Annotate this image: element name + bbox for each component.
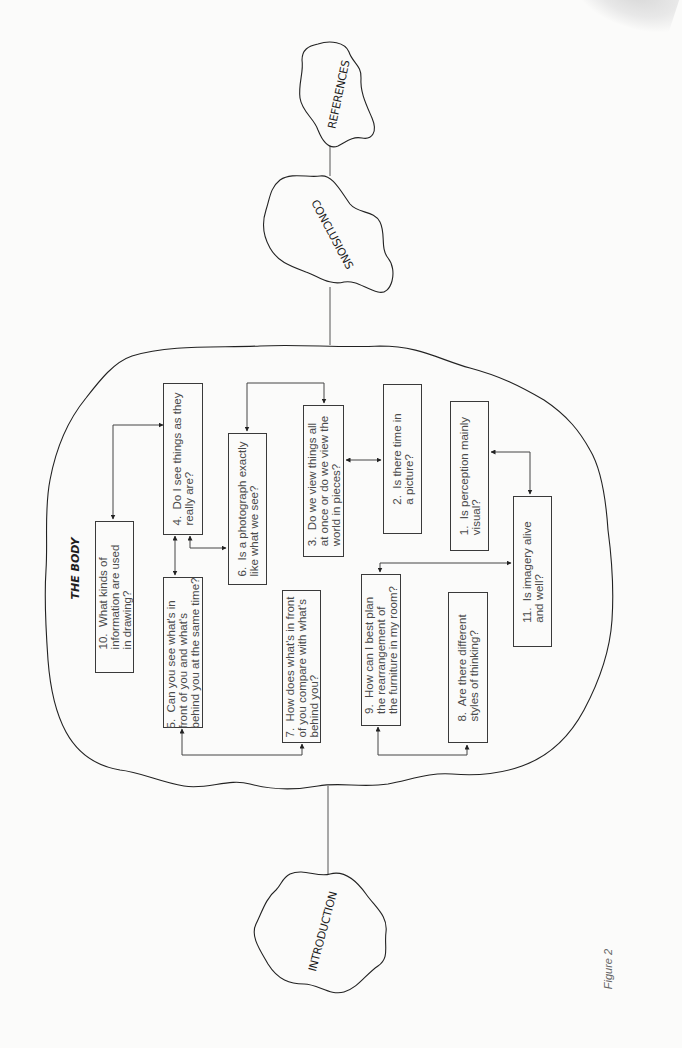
question-box-2: 2. Is there time in a picture? xyxy=(383,384,422,534)
question-box-11: 11. Is imagery alive and well? xyxy=(513,496,552,647)
question-box-8: 8. Are there different styles of thinkin… xyxy=(448,592,488,743)
question-box-9: 9. How can I best plan the rearrangement… xyxy=(361,574,401,726)
question-text-10: 10. What kinds of information are used i… xyxy=(97,545,133,650)
question-box-6: 6. Is a photograph exactly like what we … xyxy=(228,433,267,585)
question-text-11: 11. Is imagery alive and well? xyxy=(521,521,545,622)
question-box-3: 3. Do we view things all at once or do w… xyxy=(303,405,344,557)
question-box-1: 1. Is perception mainly visual? xyxy=(450,401,489,551)
question-text-2: 2. Is there time in a picture? xyxy=(391,413,415,504)
question-text-5: 5. Can you see what's in front of you an… xyxy=(165,577,201,728)
question-box-7: 7. How does what's in front of you compa… xyxy=(282,590,321,743)
question-text-4: 4. Do I see things as they really are? xyxy=(171,393,195,526)
question-text-3: 3. Do we view things all at once or do w… xyxy=(306,416,342,546)
question-box-10: 10. What kinds of information are used i… xyxy=(95,521,134,673)
question-text-1: 1. Is perception mainly visual? xyxy=(458,417,482,535)
question-text-8: 8. Are there different styles of thinkin… xyxy=(456,614,480,721)
question-text-9: 9. How can I best plan the rearrangement… xyxy=(363,586,399,714)
question-box-5: 5. Can you see what's in front of you an… xyxy=(163,577,203,728)
question-text-7: 7. How does what's in front of you compa… xyxy=(284,596,320,737)
question-text-6: 6. Is a photograph exactly like what we … xyxy=(236,442,260,577)
figure-caption: Figure 2 xyxy=(602,941,614,997)
body-section-label: THE BODY xyxy=(69,540,82,600)
question-box-4: 4. Do I see things as they really are? xyxy=(163,383,203,535)
